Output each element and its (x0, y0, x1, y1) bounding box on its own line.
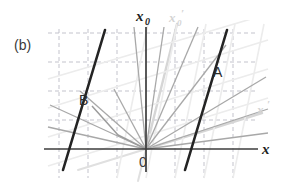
diagram-canvas: (b) x 0 x 0 ′ x x ′ 0 A B (0, 0, 292, 184)
ray-from-origin (146, 109, 268, 149)
x-primed-axis-extension (78, 149, 146, 170)
ray-from-origin (80, 91, 146, 149)
x0-axis-label-subscript: 0 (145, 16, 150, 27)
light-parallel-line (204, 24, 235, 178)
x-primed-axis-label-prime: ′ (267, 98, 270, 110)
x0-primed-axis-label: x 0 ′ (168, 7, 184, 28)
panel-label: (b) (14, 37, 31, 53)
x0-axis-label-main: x (135, 8, 144, 24)
origin-label: 0 (139, 154, 147, 170)
x0-axis-label: x 0 (135, 8, 150, 27)
event-label-a: A (213, 64, 223, 80)
x0-primed-axis-label-main: x (168, 10, 176, 25)
ray-from-origin (48, 127, 146, 149)
spacetime-diagram-figure: (b) x 0 x 0 ′ x x ′ 0 A B (0, 0, 292, 184)
event-label-b: B (79, 92, 88, 108)
x0-primed-axis-label-prime: ′ (181, 7, 184, 19)
ray-fan-group (48, 27, 268, 149)
primed-axes-group (78, 24, 262, 181)
x0-primed-axis-label-subscript: 0 (177, 18, 182, 28)
x-axis-label: x (261, 141, 270, 157)
x-primed-axis-label-main: x (256, 102, 264, 117)
ray-from-origin (146, 133, 268, 149)
